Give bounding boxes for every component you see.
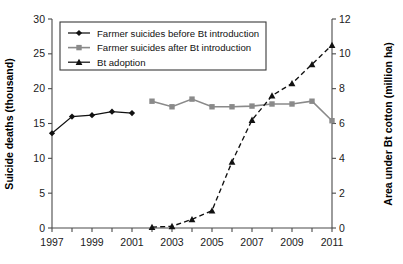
x-axis-tick-label: 1997	[40, 236, 64, 248]
series-point-1	[269, 101, 274, 106]
y-axis-right-tick-label: 12	[339, 13, 351, 25]
series-point-1	[169, 104, 174, 109]
y-axis-left-tick-label: 5	[39, 187, 45, 199]
legend-label-1: Farmer suicides after Bt introduction	[97, 42, 251, 53]
y-axis-left-tick-label: 15	[33, 117, 45, 129]
x-axis-tick-label: 2011	[321, 236, 344, 248]
x-axis-tick-label: 2001	[120, 236, 144, 248]
x-axis-tick-label: 2009	[280, 236, 304, 248]
y-axis-right-title: Area under Bt cotton (million ha)	[382, 42, 394, 205]
y-axis-left-tick-label: 10	[33, 152, 45, 164]
series-point-1	[289, 101, 294, 106]
y-axis-right-tick-label: 4	[339, 152, 345, 164]
chart-container: 0510152025300246810121997199920012003200…	[0, 0, 403, 264]
chart-svg: 0510152025300246810121997199920012003200…	[0, 0, 403, 264]
series-point-1	[149, 99, 154, 104]
series-point-1	[309, 99, 314, 104]
series-point-1	[249, 103, 254, 108]
x-axis-tick-label: 1999	[80, 236, 104, 248]
y-axis-left-title: Suicide deaths (thousand)	[3, 58, 15, 189]
legend-marker-1	[76, 45, 81, 50]
y-axis-right-tick-label: 0	[339, 222, 345, 234]
series-point-1	[329, 118, 334, 123]
y-axis-right-tick-label: 2	[339, 187, 345, 199]
x-axis-tick-label: 2005	[200, 236, 224, 248]
y-axis-right-tick-label: 6	[339, 117, 345, 129]
series-point-1	[229, 104, 234, 109]
legend-group: Farmer suicides before Bt introductionFa…	[60, 22, 266, 70]
series-point-1	[209, 104, 214, 109]
y-axis-left-tick-label: 20	[33, 82, 45, 94]
series-point-1	[189, 96, 194, 101]
y-axis-left-tick-label: 30	[33, 13, 45, 25]
x-axis-tick-label: 2007	[240, 236, 264, 248]
y-axis-right-tick-label: 10	[339, 47, 351, 59]
legend-label-0: Farmer suicides before Bt introduction	[97, 28, 259, 39]
y-axis-left-tick-label: 0	[39, 222, 45, 234]
legend-label-2: Bt adoption	[97, 57, 146, 68]
x-axis-tick-label: 2003	[160, 236, 184, 248]
y-axis-left-tick-label: 25	[33, 47, 45, 59]
y-axis-right-tick-label: 8	[339, 82, 345, 94]
